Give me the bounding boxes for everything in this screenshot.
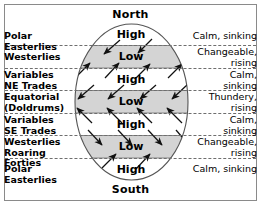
- weather-label-westerlies-south: Changeable, rising: [179, 137, 257, 158]
- zone-line: Variables: [4, 70, 84, 81]
- zone-line: Equatorial: [4, 92, 84, 103]
- zone-line: NE Trades: [4, 81, 84, 92]
- zone-line: SE Trades: [4, 126, 84, 137]
- weather-label-variables-ne-trades: Calm, sinking: [179, 70, 257, 91]
- weather-line: sinking: [179, 81, 257, 92]
- zone-label-variables-se-trades: Variables SE Trades: [4, 115, 84, 136]
- zone-label-westerlies-north: Westerlies: [4, 52, 84, 63]
- weather-line: Calm, sinking: [179, 164, 257, 175]
- zone-line: (Doldrums): [4, 103, 84, 114]
- pressure-label-high-se-trades: High: [109, 118, 153, 131]
- zone-line: Polar Easterlies: [4, 164, 84, 185]
- weather-line: rising: [179, 103, 257, 114]
- zone-line: Westerlies: [4, 52, 84, 63]
- weather-label-equatorial-doldrums: Thundery, rising: [179, 92, 257, 113]
- pressure-label-low-south-westerlies: Low: [109, 140, 153, 153]
- pressure-label-high-south-polar: High: [109, 163, 153, 176]
- weather-line: rising: [179, 58, 257, 69]
- weather-label-polar-easterlies-north: Calm, sinking: [179, 31, 257, 42]
- pressure-label-low-equatorial: Low: [109, 95, 153, 108]
- weather-label-polar-easterlies-south: Calm, sinking: [179, 164, 257, 175]
- weather-line: Changeable,: [179, 47, 257, 58]
- zone-label-polar-easterlies-south: Polar Easterlies: [4, 164, 84, 185]
- weather-label-variables-se-trades: Calm, sinking: [179, 115, 257, 136]
- zone-line: Polar Easterlies: [4, 31, 84, 52]
- pressure-label-low-north-westerlies: Low: [109, 50, 153, 63]
- north-label: North: [0, 8, 261, 21]
- zone-line: Westerlies: [4, 137, 84, 148]
- weather-line: sinking: [179, 126, 257, 137]
- global-wind-belts-diagram: North South: [0, 0, 261, 205]
- weather-line: Changeable,: [179, 137, 257, 148]
- weather-line: Calm,: [179, 115, 257, 126]
- weather-label-westerlies-north: Changeable, rising: [179, 47, 257, 68]
- weather-line: Calm, sinking: [179, 31, 257, 42]
- zone-line: Variables: [4, 115, 84, 126]
- pressure-label-high-north-polar: High: [109, 28, 153, 41]
- pressure-label-high-ne-trades: High: [109, 73, 153, 86]
- weather-line: rising: [179, 148, 257, 159]
- zone-label-variables-ne-trades: Variables NE Trades: [4, 70, 84, 91]
- weather-line: Thundery,: [179, 92, 257, 103]
- zone-label-polar-easterlies-north: Polar Easterlies: [4, 31, 84, 52]
- zone-label-equatorial-doldrums: Equatorial (Doldrums): [4, 92, 84, 113]
- weather-line: Calm,: [179, 70, 257, 81]
